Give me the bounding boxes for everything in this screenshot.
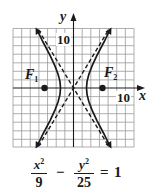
numerator-exponent: 2 — [85, 157, 89, 166]
fraction-x-denominator: 9 — [31, 175, 47, 190]
focus-2-letter: F — [104, 65, 113, 80]
numerator-exponent: 2 — [40, 157, 44, 166]
focus-2-subscript: 2 — [113, 73, 117, 82]
fraction-bar — [31, 173, 47, 174]
fraction-y-term: y2 25 — [74, 155, 94, 190]
x-tick-label: 10 — [116, 91, 131, 104]
fraction-y-denominator: 25 — [74, 175, 94, 190]
fraction-y-numerator: y2 — [74, 155, 94, 172]
focus-1-subscript: 1 — [34, 75, 38, 84]
fraction-bar — [74, 173, 94, 174]
y-axis-arrow-icon — [71, 13, 77, 21]
focus-2-label: F2 — [104, 66, 117, 80]
fraction-x-numerator: x2 — [31, 155, 47, 172]
focus-1-point — [41, 85, 47, 91]
focus-2-point — [99, 85, 105, 91]
focus-1-letter: F — [25, 67, 34, 82]
y-tick-label: 10 — [56, 33, 71, 46]
x-axis-label: x — [139, 89, 146, 103]
equation-rhs: 1 — [114, 165, 122, 180]
focus-1-label: F1 — [25, 68, 38, 82]
hyperbola-equation: x2 9 − y2 25 = 1 — [30, 155, 130, 193]
y-axis-label: y — [60, 10, 66, 24]
equals-sign: = — [100, 165, 109, 180]
fraction-x-term: x2 9 — [31, 155, 47, 190]
minus-sign: − — [56, 165, 65, 180]
